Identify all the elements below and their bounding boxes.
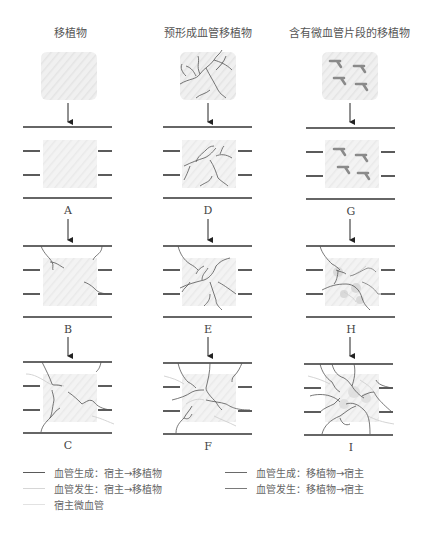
panel-B bbox=[23, 246, 112, 317]
graft-microvessel-top bbox=[322, 52, 378, 100]
legend-label: 血管发生：宿主→移植物 bbox=[54, 481, 162, 496]
panel-F bbox=[163, 363, 252, 434]
legend-angiogenesis-graft-to-host: 血管生成：移植物→宿主 bbox=[225, 465, 364, 480]
panel-G bbox=[306, 128, 395, 199]
legend-vasculogenesis-graft-to-host: 血管发生：移植物→宿主 bbox=[225, 481, 364, 496]
panel-C bbox=[23, 362, 114, 433]
legend-line-icon bbox=[225, 488, 247, 489]
legend-angiogenesis-host-to-graft: 血管生成：宿主→移植物 bbox=[23, 465, 162, 480]
panel-E bbox=[163, 246, 252, 317]
panel-label-G: G bbox=[341, 205, 361, 218]
legend-host-microvessel: 宿主微血管 bbox=[23, 497, 104, 512]
panel-label-I: I bbox=[341, 441, 361, 454]
panel-label-A: A bbox=[58, 204, 78, 217]
legend-line-icon bbox=[225, 472, 247, 473]
vascularization-diagram bbox=[0, 0, 439, 533]
arrows-row-3 bbox=[68, 337, 350, 356]
legend-line-icon bbox=[23, 504, 45, 505]
legend-line-icon bbox=[23, 488, 45, 489]
panel-label-F: F bbox=[198, 440, 218, 453]
graft-plain-top bbox=[41, 52, 97, 100]
panel-label-D: D bbox=[198, 204, 218, 217]
arrows-row-2 bbox=[68, 219, 350, 240]
legend-label: 血管生成：宿主→移植物 bbox=[54, 465, 162, 480]
panel-A bbox=[23, 127, 112, 198]
legend-line-icon bbox=[23, 472, 45, 473]
panel-label-H: H bbox=[341, 323, 361, 336]
legend-label: 血管发生：移植物→宿主 bbox=[256, 481, 364, 496]
panel-label-C: C bbox=[58, 439, 78, 452]
panel-label-B: B bbox=[58, 323, 78, 336]
panel-D bbox=[163, 127, 252, 198]
panel-H bbox=[306, 246, 395, 317]
legend-label: 宿主微血管 bbox=[54, 497, 104, 512]
legend-vasculogenesis-host-to-graft: 血管发生：宿主→移植物 bbox=[23, 481, 162, 496]
panel-I bbox=[304, 364, 394, 435]
graft-prevascularized-top bbox=[180, 50, 236, 100]
panel-label-E: E bbox=[198, 323, 218, 336]
legend-label: 血管生成：移植物→宿主 bbox=[256, 465, 364, 480]
arrows-row-1 bbox=[68, 103, 350, 122]
